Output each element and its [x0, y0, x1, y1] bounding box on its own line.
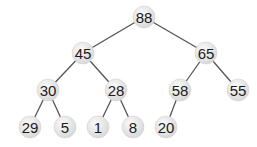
tree-node: 65: [195, 42, 217, 64]
tree-edges: [30, 17, 238, 127]
tree-node: 30: [37, 79, 59, 101]
tree-node: 20: [155, 116, 177, 138]
node-label: 28: [108, 82, 125, 99]
node-label: 1: [94, 119, 102, 136]
tree-node: 58: [169, 79, 191, 101]
node-label: 20: [158, 119, 175, 136]
tree-nodes: 884565302858552951820: [19, 6, 249, 138]
tree-node: 88: [133, 6, 155, 28]
tree-node: 5: [54, 116, 76, 138]
node-label: 5: [61, 119, 69, 136]
node-label: 45: [75, 45, 92, 62]
node-label: 29: [22, 119, 39, 136]
node-label: 8: [129, 119, 137, 136]
node-label: 55: [230, 82, 247, 99]
tree-node: 29: [19, 116, 41, 138]
tree-node: 55: [227, 79, 249, 101]
node-label: 30: [40, 82, 57, 99]
tree-node: 8: [122, 116, 144, 138]
tree-node: 28: [105, 79, 127, 101]
heap-tree-diagram: 884565302858552951820: [0, 0, 257, 147]
tree-node: 45: [72, 42, 94, 64]
node-label: 58: [172, 82, 189, 99]
tree-node: 1: [87, 116, 109, 138]
node-label: 88: [136, 9, 153, 26]
node-label: 65: [198, 45, 215, 62]
